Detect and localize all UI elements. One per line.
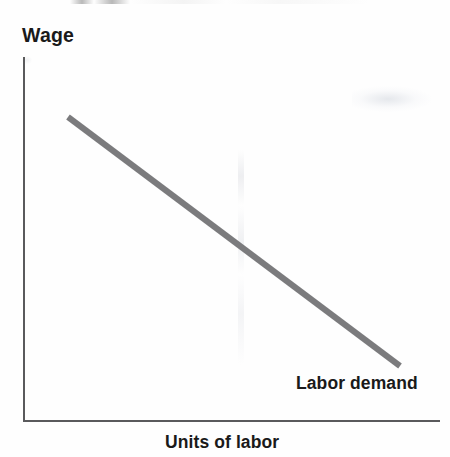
x-axis-label: Units of labor	[165, 432, 279, 453]
labor-demand-curve-label: Labor demand	[296, 373, 418, 394]
labor-demand-curve-line	[68, 117, 400, 366]
labor-demand-figure: Wage Labor demand Units of labor	[0, 0, 450, 457]
